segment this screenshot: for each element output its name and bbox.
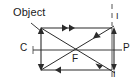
- pole-label: P: [123, 43, 130, 53]
- center-of-curvature-label: C: [20, 43, 27, 53]
- image-label-top: I: [116, 12, 119, 21]
- ray-diagram-figure: Object C F P I I: [0, 0, 138, 83]
- image-label-bottom: I: [113, 70, 116, 79]
- arrowhead-top-ray-b: [69, 25, 75, 32]
- arrowhead-bottom-ray: [55, 67, 61, 74]
- object-label: Object: [13, 7, 45, 18]
- focal-point-label: F: [72, 54, 78, 64]
- arrowhead-top-ray-a: [62, 25, 68, 32]
- arrowhead-descending-ray: [95, 63, 103, 69]
